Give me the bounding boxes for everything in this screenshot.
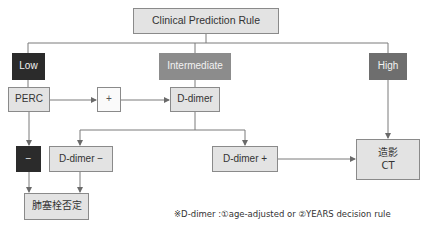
high-risk-box: High xyxy=(369,53,407,80)
d-dimer-box: D-dimer xyxy=(170,87,220,112)
d-dimer-negative-box: D-dimer − xyxy=(49,146,113,172)
perc-negative-label: − xyxy=(26,153,32,166)
intermediate-risk-box: Intermediate xyxy=(159,53,231,80)
perc-positive-box: + xyxy=(97,87,121,112)
d-dimer-positive-box: D-dimer + xyxy=(212,146,278,172)
perc-negative-box: − xyxy=(16,146,41,172)
perc-positive-label: + xyxy=(106,93,112,106)
clinical-prediction-rule-label: Clinical Prediction Rule xyxy=(152,14,260,27)
d-dimer-negative-label: D-dimer − xyxy=(59,153,103,166)
d-dimer-label: D-dimer xyxy=(177,93,213,106)
d-dimer-positive-label: D-dimer + xyxy=(223,153,267,166)
clinical-prediction-rule-box: Clinical Prediction Rule xyxy=(133,8,279,34)
pe-excluded-box: 肺塞栓否定 xyxy=(24,193,89,220)
contrast-ct-label-line1: 造影 xyxy=(378,147,398,160)
intermediate-risk-label: Intermediate xyxy=(167,60,223,73)
low-risk-box: Low xyxy=(12,53,45,80)
high-risk-label: High xyxy=(378,60,399,73)
low-risk-label: Low xyxy=(19,60,37,73)
contrast-ct-label-line2: CT xyxy=(381,160,394,173)
pe-excluded-label: 肺塞栓否定 xyxy=(32,200,82,213)
contrast-ct-box: 造影 CT xyxy=(356,139,420,180)
perc-box: PERC xyxy=(8,87,50,112)
perc-label: PERC xyxy=(15,93,43,106)
d-dimer-footnote: ※D-dimer :①age-adjusted or ②YEARS decisi… xyxy=(174,209,391,219)
